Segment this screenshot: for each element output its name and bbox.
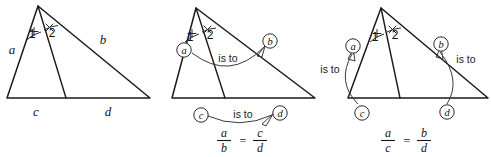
circled-label-c: c (360, 108, 365, 119)
equation-right-denominator: d (421, 141, 428, 155)
circled-label-d: d (444, 107, 450, 118)
triangle-outline (172, 8, 315, 98)
circled-label-a: a (181, 45, 186, 56)
circled-label-c: c (199, 110, 204, 121)
relation-arrowhead-c-to-d-icon (262, 114, 273, 126)
circled-label-b: b (267, 36, 272, 47)
angle-label-1: 1 (372, 30, 379, 44)
panel-ac-bd: 1 2 a c is to b d is to a c = (320, 8, 488, 155)
equation-ab-cd: a b = c d (217, 126, 267, 155)
equation-operator: = (240, 134, 247, 148)
geometry-diagram: 1 2 a b c d 1 2 a b is to (0, 0, 491, 157)
equation-left-denominator: b (221, 141, 227, 155)
angle-bisector-line (38, 6, 66, 98)
angle-label-1: 1 (29, 27, 36, 41)
circled-label-d: d (277, 108, 283, 119)
equation-left-denominator: c (385, 141, 391, 155)
relation-text-a-b: is to (218, 52, 237, 64)
relation-text-c-d: is to (233, 108, 252, 120)
relation-text-b-d: is to (456, 53, 475, 65)
figure-root: 1 2 a b c d 1 2 a b is to (0, 0, 491, 157)
circled-label-a: a (350, 41, 355, 52)
equation-right-denominator: d (257, 141, 264, 155)
side-label-b: b (100, 32, 107, 47)
panel-ab-cd: 1 2 a b is to c d is to a b = (172, 8, 315, 155)
side-label-d: d (105, 104, 112, 119)
triangle-outline (7, 6, 150, 98)
equation-operator: = (404, 134, 411, 148)
angle-label-2: 2 (392, 28, 399, 42)
equation-left-numerator: a (221, 126, 227, 140)
relation-text-a-c: is to (320, 63, 339, 75)
relation-arc-a-to-c (345, 54, 358, 104)
angle-label-2: 2 (49, 26, 56, 40)
angle-label-2: 2 (207, 28, 214, 42)
equation-right-numerator: b (421, 126, 427, 140)
equation-left-numerator: a (385, 126, 391, 140)
side-label-a: a (9, 42, 16, 57)
equation-ac-bd: a c = b d (381, 126, 431, 155)
angle-label-1: 1 (187, 30, 194, 44)
equation-right-numerator: c (257, 126, 263, 140)
side-label-c: c (33, 104, 39, 119)
panel-plain-triangle: 1 2 a b c d (7, 6, 150, 119)
circled-label-b: b (438, 39, 443, 50)
